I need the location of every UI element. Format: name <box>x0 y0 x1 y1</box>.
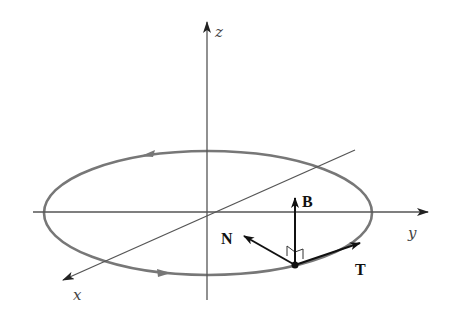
tangent-vector <box>295 243 360 265</box>
curve-point <box>292 262 299 269</box>
z-axis-label: z <box>214 23 223 41</box>
curve-direction-arrow-bottom <box>157 269 171 277</box>
binormal-label: B <box>302 193 313 210</box>
y-axis-label: y <box>407 224 417 242</box>
tangent-label: T <box>355 261 366 278</box>
frenet-frame-diagram: z y x B N T <box>0 0 449 317</box>
x-axis-label: x <box>73 286 82 304</box>
normal-label: N <box>221 230 233 247</box>
curve-direction-arrow-top <box>141 150 155 157</box>
